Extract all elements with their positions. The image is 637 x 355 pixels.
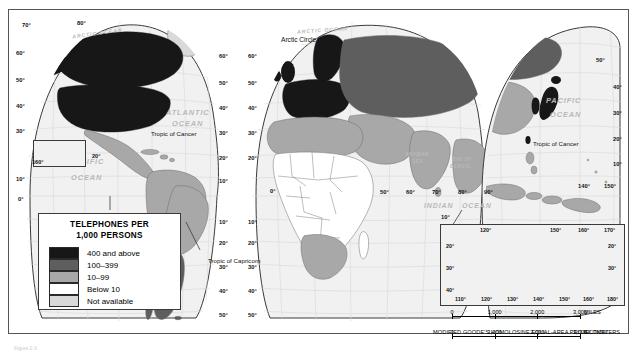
legend-label-0: 400 and above xyxy=(87,249,140,258)
miles-scale-tick-label-0: 0 xyxy=(450,309,453,315)
hokkaido xyxy=(551,76,561,84)
miles-scale-tick-label-2: 2,000 xyxy=(530,309,544,315)
legend-row-1: 100–399 xyxy=(49,259,140,271)
iceland xyxy=(258,41,270,47)
kilometers-scale: 01,0002,0003,000KILOMETERS xyxy=(452,336,612,349)
legend-label-2: 10–99 xyxy=(87,273,109,282)
legend-swatch-4 xyxy=(49,295,79,307)
figure-caption: Figure 2-3 xyxy=(14,345,37,351)
australia-inset xyxy=(440,224,625,306)
canada xyxy=(56,32,183,88)
legend-row-2: 10–99 xyxy=(49,271,140,283)
km-scale-line xyxy=(452,336,580,337)
world-telephone-density-map: ARCTIC OCEANARCTIC OCEANATLANTICOCEANPAC… xyxy=(0,0,637,355)
legend-label-3: Below 10 xyxy=(87,285,120,294)
legend-row-3: Below 10 xyxy=(49,283,140,295)
miles-scale-tick-label-1: 1,000 xyxy=(488,309,502,315)
british-isles xyxy=(273,61,295,83)
miles-scale: 01,0002,0003,000MILES xyxy=(452,316,612,329)
russia xyxy=(340,35,483,117)
legend-title-line1: TELEPHONES PER xyxy=(39,220,180,231)
legend-title-line2: 1,000 PERSONS xyxy=(39,231,180,242)
miles-scale-unit: MILES xyxy=(584,309,601,315)
miles-scale-line xyxy=(452,316,580,317)
falkland-islands xyxy=(175,316,182,320)
legend-label-4: Not available xyxy=(87,297,133,306)
legend-title: TELEPHONES PER 1,000 PERSONS xyxy=(39,214,180,241)
taiwan xyxy=(525,136,530,144)
legend-swatch-3 xyxy=(49,283,79,295)
legend-swatch-2 xyxy=(49,271,79,283)
hawaii-inset xyxy=(33,140,86,167)
projection-note: MODIFIED GOODE'S HOMOLOSINE EQUAL-AREA P… xyxy=(404,329,636,335)
legend-class-list: 400 and above100–39910–99Below 10Not ava… xyxy=(49,247,140,307)
legend-swatch-1 xyxy=(49,259,79,271)
legend-label-1: 100–399 xyxy=(87,261,118,270)
legend-row-0: 400 and above xyxy=(49,247,140,259)
sri-lanka xyxy=(435,188,441,197)
map-legend: TELEPHONES PER 1,000 PERSONS 400 and abo… xyxy=(38,213,181,310)
legend-row-4: Not available xyxy=(49,295,140,307)
legend-swatch-0 xyxy=(49,247,79,259)
